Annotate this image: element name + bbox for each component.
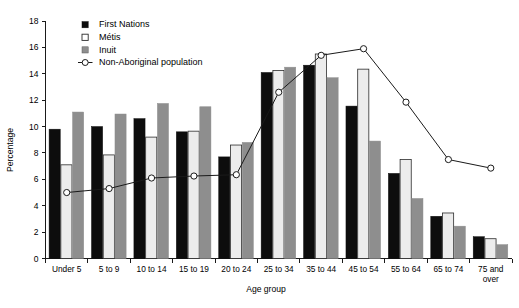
bar-inuit (369, 141, 380, 258)
bar-inuit (157, 103, 168, 258)
bar-inuit (412, 198, 423, 258)
x-tick-label: 55 to 64 (391, 264, 421, 274)
bar-first-nations (304, 65, 315, 258)
bar-first-nations (388, 173, 399, 258)
legend-label: Métis (99, 32, 121, 42)
legend-label: Non-Aboriginal population (99, 57, 203, 67)
chart-legend: First NationsMétisInuitNon-Aboriginal po… (78, 19, 203, 67)
x-tick-label: 25 to 34 (264, 264, 294, 274)
legend-marker-non-aboriginal (82, 60, 88, 66)
bar-inuit (454, 226, 465, 258)
y-tick-label: 8 (34, 148, 39, 158)
bar-first-nations (431, 216, 442, 258)
x-tick-label: 5 to 9 (99, 264, 120, 274)
y-tick-label: 4 (34, 201, 39, 211)
x-tick-label: 45 to 54 (349, 264, 379, 274)
bar-first-nations (346, 106, 357, 258)
non-aboriginal-data-point (445, 156, 451, 162)
y-tick-label: 16 (29, 42, 39, 52)
non-aboriginal-data-point (233, 172, 239, 178)
bar-first-nations (261, 72, 272, 258)
non-aboriginal-data-point (318, 52, 324, 58)
bar-metis (400, 160, 411, 259)
bar-metis (358, 69, 369, 258)
y-axis-tick-labels: 024681012141618 (29, 16, 39, 264)
non-aboriginal-data-point (191, 173, 197, 179)
chart-container: 024681012141618 Percentage Under 55 to 9… (0, 0, 519, 308)
bars-layer (49, 54, 508, 259)
bar-metis (146, 137, 157, 258)
legend-label: First Nations (99, 19, 150, 29)
non-aboriginal-data-point (64, 189, 70, 195)
bar-first-nations (176, 132, 187, 259)
bar-inuit (200, 107, 211, 259)
legend-label: Inuit (99, 45, 117, 55)
non-aboriginal-data-point (276, 89, 282, 95)
x-tick-label: 20 to 24 (221, 264, 251, 274)
legend-swatch-inuit (82, 47, 88, 53)
bar-first-nations (134, 119, 145, 259)
non-aboriginal-data-point (360, 46, 366, 52)
bar-metis (273, 70, 284, 258)
grouped-bar-chart: 024681012141618 Percentage Under 55 to 9… (0, 0, 519, 308)
x-tick-label: Under 5 (52, 264, 82, 274)
bar-inuit (73, 112, 84, 258)
bar-metis (103, 155, 114, 259)
y-axis-title: Percentage (5, 128, 15, 172)
y-tick-label: 2 (34, 227, 39, 237)
y-tick-label: 18 (29, 16, 39, 26)
y-tick-label: 6 (34, 174, 39, 184)
x-tick-label: 65 to 74 (433, 264, 463, 274)
legend-swatch-first-nations (82, 22, 88, 28)
bar-metis (485, 239, 496, 259)
bar-first-nations (473, 237, 484, 259)
x-tick-label: 10 to 14 (137, 264, 167, 274)
bar-first-nations (92, 127, 103, 259)
non-aboriginal-data-point (148, 175, 154, 181)
bar-first-nations (49, 129, 60, 258)
non-aboriginal-data-point (403, 99, 409, 105)
x-axis-tick-marks (46, 259, 513, 263)
legend-swatch-metis (82, 34, 88, 40)
x-tick-label: 35 to 44 (306, 264, 336, 274)
bar-inuit (497, 245, 508, 259)
bar-metis (443, 213, 454, 259)
non-aboriginal-data-point (106, 185, 112, 191)
bar-inuit (285, 67, 296, 258)
x-tick-label: over (483, 274, 499, 284)
x-tick-label: 15 to 19 (179, 264, 209, 274)
non-aboriginal-data-point (488, 165, 494, 171)
bar-metis (61, 165, 72, 259)
y-axis-ticks (42, 21, 46, 259)
y-tick-label: 12 (29, 95, 39, 105)
y-tick-label: 10 (29, 122, 39, 132)
bar-first-nations (219, 157, 230, 259)
bar-metis (315, 54, 326, 259)
y-tick-label: 14 (29, 69, 39, 79)
y-tick-label: 0 (34, 254, 39, 264)
bar-metis (230, 145, 241, 258)
bar-metis (188, 131, 199, 258)
x-axis-tick-labels: Under 55 to 910 to 1415 to 1920 to 2425 … (52, 264, 504, 284)
x-axis-title: Age group (246, 284, 286, 294)
bar-inuit (327, 78, 338, 259)
x-tick-label: 75 and (478, 264, 504, 274)
